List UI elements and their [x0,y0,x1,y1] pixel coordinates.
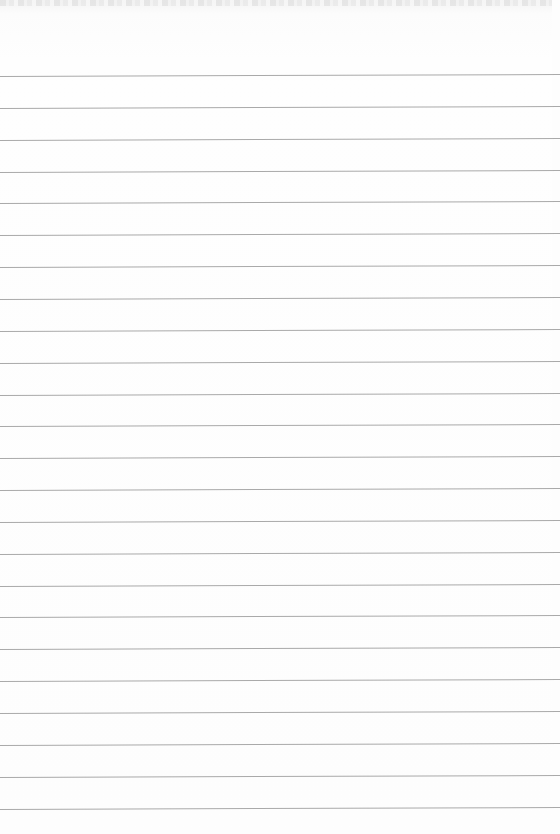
top-edge-bleed-through [0,0,552,6]
ruled-line [0,393,560,396]
ruled-line [0,679,560,682]
ruled-line [0,361,560,364]
ruled-line [0,424,560,427]
ruled-line [0,743,560,746]
ruled-line [0,711,560,714]
ruled-line [0,584,560,587]
ruled-line [0,775,560,778]
ruled-line [0,74,560,77]
ruled-line [0,647,560,650]
ruled-line [0,265,560,268]
ruled-line [0,329,560,332]
ruled-line [0,520,560,523]
ruled-line [0,233,560,236]
ruled-line [0,297,560,300]
ruled-line [0,138,560,141]
ruled-line [0,106,560,109]
ruled-line [0,170,560,173]
ruled-line [0,488,560,491]
ruled-line [0,456,560,459]
ruled-line [0,201,560,204]
ruled-line [0,552,560,555]
ruled-line [0,807,560,810]
ruled-line [0,615,560,618]
